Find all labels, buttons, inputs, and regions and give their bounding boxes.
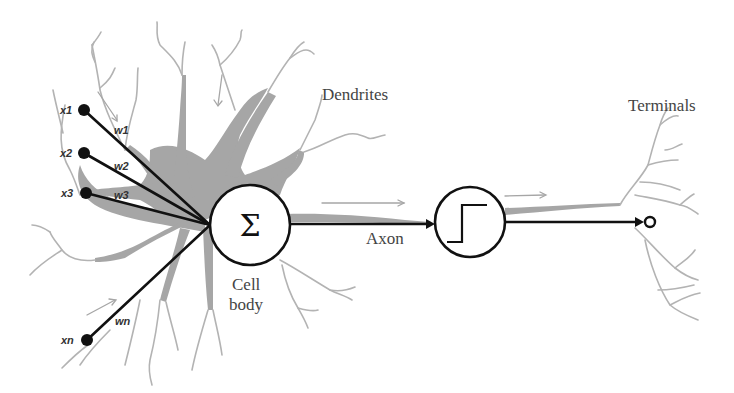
axon-label: Axon xyxy=(366,229,404,248)
input-node-x2 xyxy=(78,147,90,159)
terminals-label: Terminals xyxy=(628,96,696,115)
step-activation-node xyxy=(435,187,505,257)
input-label-x1: x1 xyxy=(59,104,72,116)
weight-label-w3: w3 xyxy=(114,189,129,201)
dendrites-label: Dendrites xyxy=(322,85,388,104)
neuron-diagram: x1 x2 x3 xn w1 w2 w3 wn Σ Cell body Axon xyxy=(0,0,734,393)
sigma-symbol: Σ xyxy=(239,208,260,243)
input-label-xn: xn xyxy=(60,334,74,346)
input-label-x3: x3 xyxy=(60,187,73,199)
weight-label-w1: w1 xyxy=(114,124,129,136)
input-node-x1 xyxy=(78,104,90,116)
input-node-x3 xyxy=(80,187,92,199)
input-node-xn xyxy=(81,334,93,346)
cell-body-label-line2: body xyxy=(229,295,264,314)
weight-label-w2: w2 xyxy=(114,160,129,172)
output-terminal xyxy=(645,217,655,227)
input-nodes xyxy=(78,104,93,346)
summation-node: Σ xyxy=(210,185,290,265)
output-connection xyxy=(505,217,655,227)
neuron-body-shape xyxy=(78,75,620,310)
input-label-x2: x2 xyxy=(59,147,72,159)
diagram-svg: x1 x2 x3 xn w1 w2 w3 wn Σ Cell body Axon xyxy=(0,0,734,393)
cell-body-label-line1: Cell xyxy=(232,275,261,294)
weight-label-wn: wn xyxy=(115,315,131,327)
